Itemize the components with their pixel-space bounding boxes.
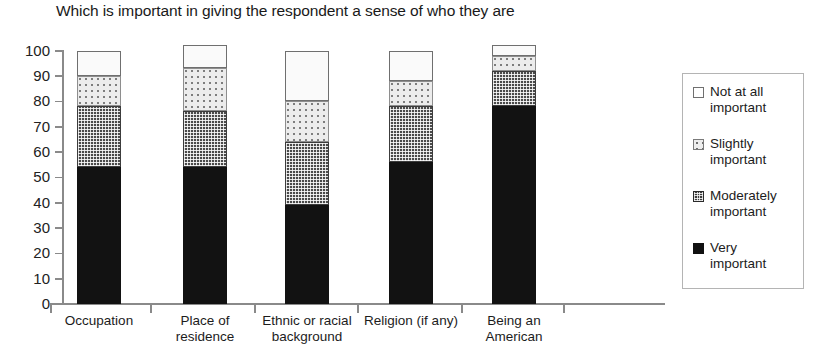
x-axis-tick [461, 305, 463, 313]
y-axis-tick [55, 75, 63, 77]
bar-segment-notatall[interactable] [285, 51, 329, 102]
legend-label-line: Slightly [710, 136, 806, 152]
legend-label-line: important [710, 256, 806, 272]
bar-segment-moderately[interactable] [183, 111, 227, 167]
bar-segment-slightly[interactable] [183, 68, 227, 111]
bar-segment-moderately[interactable] [77, 106, 121, 167]
legend-item-label: Moderatelyimportant [710, 188, 806, 220]
bar-segment-very[interactable] [492, 106, 536, 304]
bar-segment-notatall[interactable] [389, 51, 433, 81]
legend-label-line: Very [710, 240, 806, 256]
bar-segment-notatall[interactable] [183, 45, 227, 68]
y-axis-tick-label: 50 [0, 168, 50, 185]
y-axis-tick [55, 253, 63, 255]
y-axis-tick [55, 227, 63, 229]
legend-item[interactable]: Veryimportant [693, 240, 806, 272]
x-axis-category-label-line: American [439, 329, 589, 345]
legend-label-line: important [710, 100, 806, 116]
legend-swatch-icon [693, 191, 704, 202]
legend-item[interactable]: Moderatelyimportant [693, 188, 806, 220]
y-axis-tick-label: 10 [0, 270, 50, 287]
bar-segment-very[interactable] [77, 167, 121, 304]
y-axis-tick-label: 70 [0, 118, 50, 135]
bar-column[interactable] [77, 51, 121, 305]
bar-column[interactable] [492, 51, 536, 305]
legend-swatch-icon [693, 139, 704, 150]
legend-label-line: Moderately [710, 188, 806, 204]
legend-item-label: Veryimportant [710, 240, 806, 272]
y-axis-tick-label: 90 [0, 67, 50, 84]
x-axis-category-label: Being anAmerican [439, 313, 589, 345]
legend-swatch-icon [693, 87, 704, 98]
legend-label-line: important [710, 152, 806, 168]
bar-segment-very[interactable] [389, 162, 433, 304]
legend-item-label: Not at allimportant [710, 84, 806, 116]
legend-item[interactable]: Not at allimportant [693, 84, 806, 116]
bar-segment-notatall[interactable] [492, 45, 536, 55]
bar-segment-notatall[interactable] [77, 51, 121, 76]
y-axis-tick [55, 101, 63, 103]
chart-page: Which is important in giving the respond… [0, 0, 816, 352]
bar-column[interactable] [285, 51, 329, 305]
x-axis-tick [357, 305, 359, 313]
bar-segment-moderately[interactable] [492, 71, 536, 106]
y-axis-tick [55, 50, 63, 52]
bar-segment-very[interactable] [285, 205, 329, 304]
bar-column[interactable] [183, 51, 227, 305]
legend-label-line: Not at all [710, 84, 806, 100]
bar-segment-slightly[interactable] [389, 81, 433, 106]
y-axis-tick [55, 304, 63, 306]
x-axis-category-label-line: Being an [439, 313, 589, 329]
y-axis-tick [55, 126, 63, 128]
chart-legend: Not at allimportantSlightlyimportantMode… [682, 73, 804, 289]
bar-segment-slightly[interactable] [285, 101, 329, 142]
x-axis-category-label-line: background [232, 329, 382, 345]
y-axis-tick-label: 40 [0, 194, 50, 211]
x-axis-tick [150, 305, 152, 313]
y-axis-tick [55, 202, 63, 204]
legend-label-line: important [710, 204, 806, 220]
y-axis-tick [55, 151, 63, 153]
bar-column[interactable] [389, 51, 433, 305]
y-axis-tick-label: 100 [0, 42, 50, 59]
legend-item[interactable]: Slightlyimportant [693, 136, 806, 168]
legend-swatch-icon [693, 243, 704, 254]
plot-area: 1009080706050403020100 OccupationPlace o… [0, 0, 680, 352]
bar-segment-very[interactable] [183, 167, 227, 304]
bar-segment-moderately[interactable] [389, 106, 433, 162]
y-axis-tick [55, 278, 63, 280]
bar-segment-slightly[interactable] [77, 76, 121, 106]
x-axis-tick [563, 305, 565, 313]
bar-segment-slightly[interactable] [492, 56, 536, 71]
x-axis-tick [254, 305, 256, 313]
y-axis-tick-label: 30 [0, 219, 50, 236]
y-axis-tick [55, 177, 63, 179]
y-axis-tick-label: 60 [0, 143, 50, 160]
bar-segment-moderately[interactable] [285, 142, 329, 205]
y-axis-tick-label: 80 [0, 92, 50, 109]
y-axis-tick-label: 0 [0, 295, 50, 312]
x-axis-tick [50, 305, 52, 313]
legend-item-label: Slightlyimportant [710, 136, 806, 168]
y-axis-tick-label: 20 [0, 244, 50, 261]
